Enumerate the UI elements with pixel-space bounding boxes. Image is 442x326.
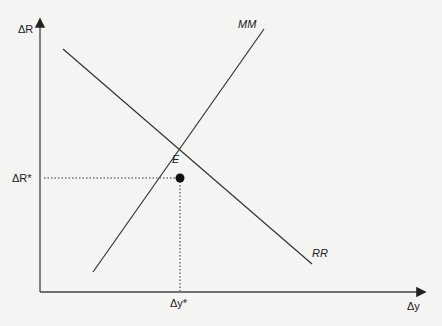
rr-curve-label: RR (312, 247, 328, 259)
x-axis-label: Δy (407, 300, 420, 312)
equilibrium-label: E (172, 153, 180, 165)
rr-curve (63, 49, 312, 264)
equilibrium-point (176, 174, 185, 183)
mm-curve (93, 29, 264, 272)
mm-curve-label: MM (238, 18, 257, 30)
diagram-canvas: ΔR Δy MM RR E ΔR* Δy* (0, 0, 442, 326)
y-axis-label: ΔR (18, 23, 33, 35)
equilibrium-y-label: ΔR* (12, 172, 32, 184)
equilibrium-x-label: Δy* (170, 297, 188, 309)
